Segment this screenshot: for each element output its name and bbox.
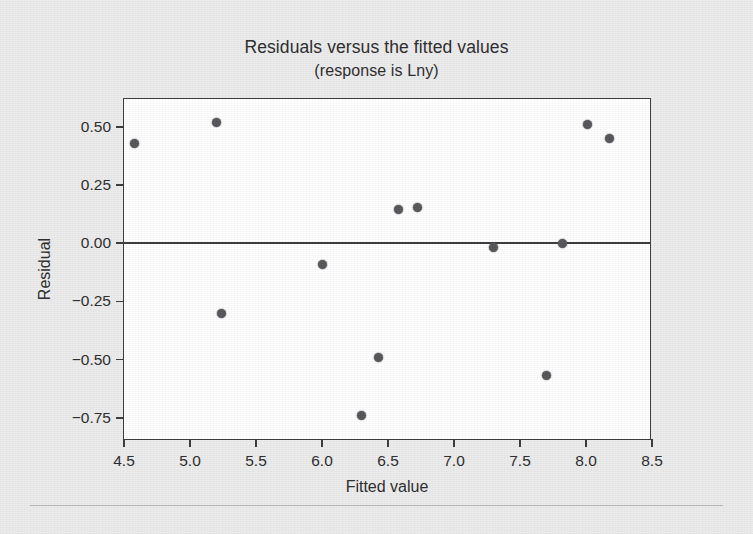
data-point — [542, 371, 551, 380]
data-point — [357, 411, 366, 420]
data-point — [217, 309, 226, 318]
data-point — [489, 243, 498, 252]
y-tick-label: 0.50 — [81, 118, 111, 136]
x-tick-label: 5.0 — [179, 452, 201, 470]
data-point — [558, 239, 567, 248]
data-point — [583, 120, 592, 129]
data-point — [394, 205, 403, 214]
x-tick-mark — [651, 439, 653, 447]
x-tick-mark — [519, 439, 521, 447]
x-tick-mark — [321, 439, 323, 447]
data-point — [605, 134, 614, 143]
y-tick-mark — [116, 184, 124, 186]
x-tick-mark — [585, 439, 587, 447]
x-tick-label: 4.5 — [113, 452, 135, 470]
x-axis-title: Fitted value — [123, 478, 651, 496]
y-tick-mark — [116, 417, 124, 419]
y-tick-mark — [116, 359, 124, 361]
data-point — [413, 203, 422, 212]
x-tick-mark — [123, 439, 125, 447]
x-tick-label: 7.5 — [509, 452, 531, 470]
data-point — [374, 353, 383, 362]
y-tick-label: 0.25 — [81, 176, 111, 194]
y-tick-mark — [116, 301, 124, 303]
x-tick-mark — [387, 439, 389, 447]
x-tick-label: 6.5 — [377, 452, 399, 470]
data-point — [130, 139, 139, 148]
residual-scatter-figure: Residuals versus the fitted values (resp… — [0, 0, 753, 534]
data-point — [212, 118, 221, 127]
y-axis-title: Residual — [36, 238, 54, 300]
x-tick-mark — [255, 439, 257, 447]
x-tick-mark — [453, 439, 455, 447]
y-tick-label: 0.00 — [81, 234, 111, 252]
y-tick-mark — [116, 242, 124, 244]
chart-title-line1: Residuals versus the fitted values — [244, 37, 508, 57]
y-tick-label: −0.50 — [72, 351, 111, 369]
y-tick-label: −0.75 — [72, 409, 111, 427]
chart-title: Residuals versus the fitted values (resp… — [0, 36, 753, 82]
data-point — [318, 260, 327, 269]
figure-page: Residuals versus the fitted values (resp… — [0, 0, 753, 534]
x-tick-mark — [189, 439, 191, 447]
x-tick-label: 7.0 — [443, 452, 465, 470]
chart-title-line2: (response is Lny) — [0, 59, 753, 82]
zero-reference-line — [124, 242, 650, 244]
x-tick-label: 5.5 — [245, 452, 267, 470]
y-tick-mark — [116, 126, 124, 128]
y-tick-label: −0.25 — [72, 292, 111, 310]
plot-area: 0.500.250.00−0.25−0.50−0.75 4.55.05.56.0… — [123, 98, 651, 440]
x-tick-label: 8.0 — [575, 452, 597, 470]
x-tick-label: 6.0 — [311, 452, 333, 470]
x-tick-label: 8.5 — [641, 452, 663, 470]
footer-divider — [30, 505, 723, 506]
